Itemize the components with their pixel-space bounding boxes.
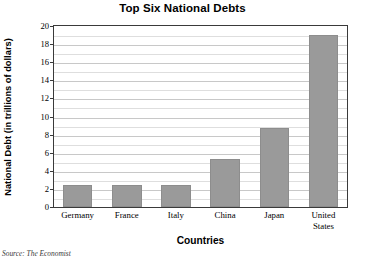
y-axis-tick-mark	[50, 80, 53, 81]
chart-title: Top Six National Debts	[0, 2, 365, 14]
plot-area	[53, 25, 348, 208]
y-axis-tick-label: 12	[27, 93, 49, 103]
y-axis-tick-mark	[50, 171, 53, 172]
gridline-major	[54, 63, 347, 64]
gridline-major	[54, 154, 347, 155]
x-axis-tick-label: Italy	[151, 210, 200, 221]
bar-united-states	[309, 35, 339, 207]
y-axis-tick-label: 16	[27, 57, 49, 67]
source-note: Source: The Economist	[2, 249, 71, 258]
gridline-minor	[54, 54, 347, 55]
y-axis-tick-label: 20	[27, 21, 49, 31]
y-axis-tick-mark	[50, 44, 53, 45]
y-axis-tick-label: 8	[27, 130, 49, 140]
bar-china	[210, 159, 240, 207]
gridline-major	[54, 81, 347, 82]
x-axis-tick-label: Germany	[53, 210, 102, 221]
y-axis-tick-mark	[50, 26, 53, 27]
y-axis-tick-label: 14	[27, 75, 49, 85]
y-axis-tick-mark	[50, 153, 53, 154]
gridline-major	[54, 190, 347, 191]
y-axis-tick-label: 0	[27, 202, 49, 212]
source-note-prefix: Source:	[2, 249, 25, 258]
y-axis-tick-mark	[50, 189, 53, 190]
x-axis-title: Countries	[53, 235, 348, 246]
plot-inner	[54, 26, 347, 207]
gridline-minor	[54, 127, 347, 128]
bar-italy	[161, 185, 191, 207]
gridline-major	[54, 172, 347, 173]
gridline-minor	[54, 163, 347, 164]
gridline-major	[54, 118, 347, 119]
y-axis-tick-label: 18	[27, 39, 49, 49]
y-axis-tick-label: 10	[27, 112, 49, 122]
y-axis-tick-mark	[50, 207, 53, 208]
gridline-major	[54, 136, 347, 137]
gridline-minor	[54, 72, 347, 73]
y-axis-tick-mark	[50, 62, 53, 63]
gridline-major	[54, 99, 347, 100]
gridline-minor	[54, 181, 347, 182]
y-axis-title: National Debt (in trillions of dollars)	[3, 38, 13, 196]
x-axis-tick-label: United States	[299, 210, 348, 231]
x-axis-tick-label: China	[201, 210, 250, 221]
y-axis-title-container: National Debt (in trillions of dollars)	[1, 25, 15, 208]
y-axis-tick-label: 2	[27, 184, 49, 194]
y-axis-tick-mark	[50, 135, 53, 136]
bar-japan	[260, 128, 290, 207]
bar-france	[112, 185, 142, 207]
y-axis-tick-mark	[50, 98, 53, 99]
gridline-minor	[54, 108, 347, 109]
gridline-minor	[54, 90, 347, 91]
gridline-major	[54, 45, 347, 46]
x-axis-tick-label: France	[102, 210, 151, 221]
source-note-text: The Economist	[27, 249, 71, 258]
y-axis-tick-mark	[50, 117, 53, 118]
gridline-minor	[54, 36, 347, 37]
gridline-minor	[54, 199, 347, 200]
bar-germany	[63, 185, 93, 207]
y-axis-tick-label: 6	[27, 148, 49, 158]
bar-chart-figure: Top Six National Debts National Debt (in…	[0, 0, 365, 259]
gridline-minor	[54, 145, 347, 146]
x-axis-tick-label: Japan	[250, 210, 299, 221]
y-axis-tick-label: 4	[27, 166, 49, 176]
